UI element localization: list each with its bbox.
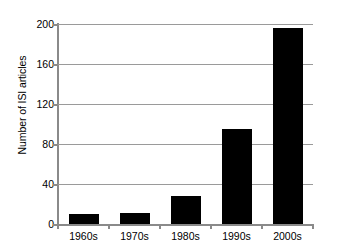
y-tick-mark-80 <box>53 144 57 146</box>
x-tick-label-1960s: 1960s <box>58 231 109 242</box>
bar-2000s <box>273 28 303 224</box>
y-tick-label-200: 200 <box>36 19 54 29</box>
bar-chart-figure: Number of ISI articles 200 160 120 80 40… <box>0 0 340 242</box>
x-tick-mark-0 <box>57 225 59 229</box>
x-tick-label-1970s: 1970s <box>109 231 160 242</box>
y-tick-label-160: 160 <box>36 59 54 69</box>
x-tick-label-1990s: 1990s <box>211 231 262 242</box>
y-tick-label-120: 120 <box>36 99 54 109</box>
bar-1990s <box>222 129 252 224</box>
x-tick-mark-5 <box>312 225 314 229</box>
y-tick-mark-120 <box>53 104 57 106</box>
x-tick-label-2000s: 2000s <box>262 231 313 242</box>
x-tick-mark-1 <box>108 225 110 229</box>
bar-1970s <box>120 213 150 224</box>
x-axis-line <box>57 224 314 226</box>
bar-1980s <box>171 196 201 224</box>
y-tick-mark-40 <box>53 184 57 186</box>
y-tick-mark-200 <box>53 24 57 26</box>
plot-area <box>58 24 313 224</box>
x-tick-label-1980s: 1980s <box>160 231 211 242</box>
y-axis-title: Number of ISI articles <box>14 10 30 200</box>
x-tick-mark-3 <box>210 225 212 229</box>
bar-1960s <box>69 214 99 224</box>
x-tick-mark-4 <box>261 225 263 229</box>
y-tick-mark-160 <box>53 64 57 66</box>
x-tick-mark-2 <box>159 225 161 229</box>
gridline-200 <box>58 24 313 25</box>
